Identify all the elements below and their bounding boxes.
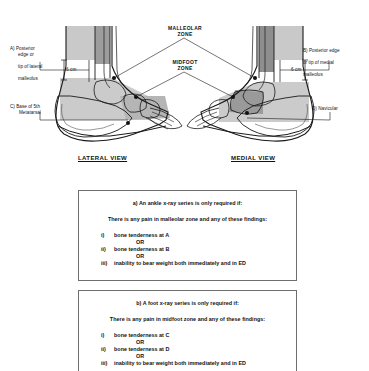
leader-malleolar-right	[184, 38, 255, 78]
rule-or-label: OR	[101, 339, 296, 345]
rule-item-number: ii)	[101, 246, 114, 252]
ottawa-ankle-rules-figure: A) Posterior edge or tip of lateral mall…	[0, 0, 369, 371]
lateral-foot-illustration	[55, 26, 182, 141]
rule-item-number: ii)	[101, 346, 114, 352]
zone-label-malleolar: MALLEOLAR ZONE	[145, 25, 225, 38]
callout-c: C) Base of 5th Metatarsal	[10, 98, 66, 122]
rule-item-text: bone tenderness at C	[114, 332, 169, 338]
medial-tibia-shade	[259, 26, 274, 72]
callout-b-line3: malleolus	[303, 72, 323, 77]
rule-box-foot-heading: b) A foot x-ray series is only required …	[79, 300, 296, 306]
rule-item: i) bone tenderness at C	[101, 332, 296, 338]
callout-d-line1: D) Navicular	[312, 106, 338, 111]
anatomy-illustration: A) Posterior edge or tip of lateral mall…	[0, 0, 369, 178]
lateral-tibia-shade	[95, 26, 110, 64]
rule-item-number: iii)	[101, 360, 114, 366]
callout-c-line2: Metatarsal	[10, 110, 66, 116]
rule-box-foot: b) A foot x-ray series is only required …	[78, 290, 297, 371]
callout-b-line2: or tip of medial	[303, 60, 334, 65]
leader-midfoot-left	[136, 72, 184, 97]
leader-malleolar-left	[114, 38, 184, 78]
rule-item-number: i)	[101, 332, 114, 338]
marker-dot-c	[126, 121, 130, 125]
marker-dot-d	[245, 111, 249, 115]
callout-c-line1: C) Base of 5th	[10, 104, 40, 109]
lateral-metatarsal-line-c	[146, 118, 168, 129]
rule-item-text: bone tenderness at A	[114, 232, 169, 238]
rule-box-foot-list: i) bone tenderness at C OR ii) bone tend…	[79, 332, 296, 366]
rule-item: ii) bone tenderness at D	[101, 346, 296, 352]
rule-item-text: inability to bear weight both immediatel…	[114, 360, 246, 366]
rule-or-label: OR	[101, 253, 296, 259]
rule-item: ii) bone tenderness at B	[101, 246, 296, 252]
rule-box-ankle-list: i) bone tenderness at A OR ii) bone tend…	[79, 232, 296, 266]
rule-item-text: inability to bear weight both immediatel…	[114, 260, 246, 266]
rule-item-text: bone tenderness at D	[114, 346, 169, 352]
rule-item: iii) inability to bear weight both immed…	[101, 360, 296, 366]
measurement-label-left: 6 cm	[66, 67, 76, 72]
rule-item: i) bone tenderness at A	[101, 232, 296, 238]
rule-box-foot-subheading: There is any pain in midfoot zone and an…	[79, 316, 296, 322]
callout-a: A) Posterior edge or tip of lateral mall…	[10, 40, 66, 89]
callout-a-line1: A) Posterior	[10, 46, 35, 51]
rule-item: iii) inability to bear weight both immed…	[101, 260, 296, 266]
measurement-label-right: 6 cm	[291, 67, 301, 72]
rule-box-ankle: a) An ankle x-ray series is only require…	[78, 190, 297, 281]
leader-midfoot-right	[184, 72, 233, 97]
rule-item-text: bone tenderness at B	[114, 246, 169, 252]
callout-a-line4: malleolus	[10, 76, 66, 82]
view-label-lateral: LATERAL VIEW	[78, 155, 127, 161]
rule-or-label: OR	[101, 239, 296, 245]
view-label-medial: MEDIAL VIEW	[231, 155, 275, 161]
zone-label-midfoot: MIDFOOT ZONE	[145, 59, 225, 72]
callout-d: D) Navicular	[312, 100, 368, 112]
callout-b-line1: B) Posterior edge	[303, 48, 340, 53]
callout-a-line3: tip of lateral	[10, 64, 66, 70]
rule-box-ankle-subheading: There is any pain in malleolar zone and …	[79, 216, 296, 222]
rule-or-label: OR	[101, 353, 296, 359]
callout-b: B) Posterior edge or tip of medial malle…	[303, 42, 365, 78]
rule-box-ankle-heading: a) An ankle x-ray series is only require…	[79, 200, 296, 206]
rule-item-number: iii)	[101, 260, 114, 266]
rule-item-number: i)	[101, 232, 114, 238]
callout-a-line2: edge or	[10, 52, 66, 58]
